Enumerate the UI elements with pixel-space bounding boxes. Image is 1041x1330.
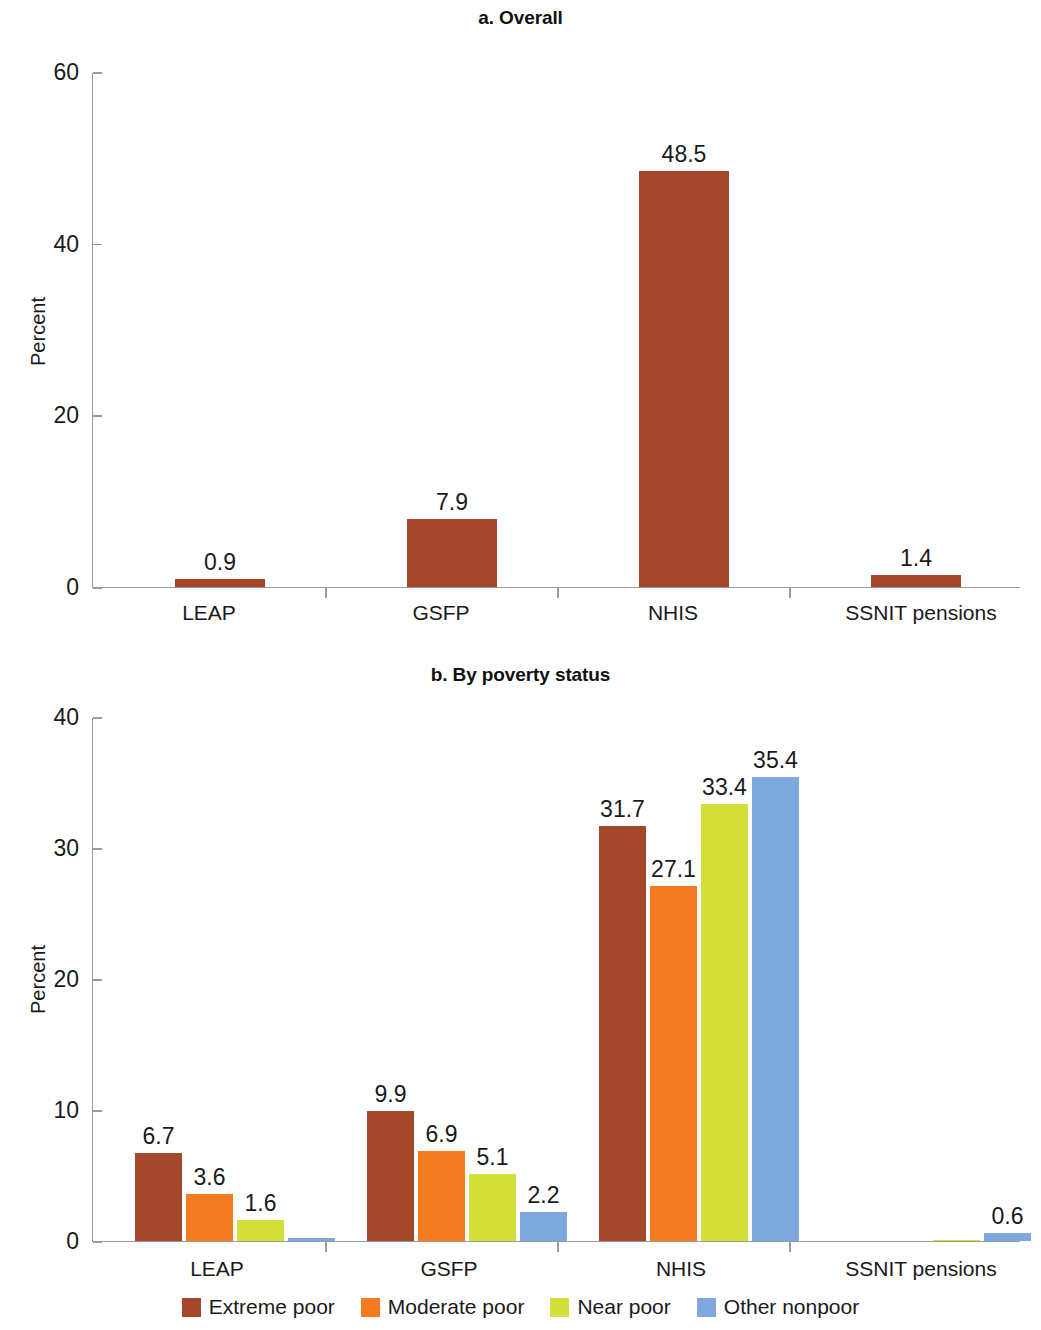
panel-a-xlabel-nhis: NHIS [648,601,698,625]
tick-mark-icon [93,1110,102,1112]
panel-a-ytick-label: 60 [53,59,79,86]
bar-nhis-moderate-poor: 27.1 [650,886,697,1241]
panel-a-xlabel-leap: LEAP [182,601,236,625]
bar-value-label: 3.6 [194,1166,226,1189]
panel-b-y-axis-title: Percent [27,920,50,1040]
bar-nhis-extreme-poor: 31.7 [599,826,646,1241]
panel-b-xlabel-leap: LEAP [190,1257,244,1281]
panel-a-xlabel-ssnit: SSNIT pensions [845,601,996,625]
legend-swatch-icon [697,1298,716,1317]
panel-b-title: b. By poverty status [0,664,1041,686]
bar-nhis: 48.5 [639,171,729,587]
legend-item-moderate-poor: Moderate poor [361,1295,525,1319]
bar-value-label: 35.4 [753,749,798,772]
bar-value-label: 0.6 [992,1205,1024,1228]
tick-mark-icon [93,244,102,246]
panel-b-legend: Extreme poor Moderate poor Near poor Oth… [0,1295,1041,1319]
panel-b-plot-area: 40 30 20 10 0 6.7 3.6 1.6 [92,718,1020,1242]
legend-label: Near poor [577,1295,670,1319]
legend-item-extreme-poor: Extreme poor [182,1295,335,1319]
bar-leap-extreme-poor: 6.7 [135,1153,182,1241]
bar-ssnit-near-poor [933,1240,980,1241]
panel-b-xlabel-ssnit: SSNIT pensions [845,1257,996,1281]
panel-a-ytick-label: 20 [53,402,79,429]
panel-b-ytick-label: 40 [53,704,79,731]
bar-nhis-other-nonpoor: 35.4 [752,777,799,1241]
panel-b-xtick-sep-3 [789,1241,791,1252]
panel-a-ytick-label: 40 [53,231,79,258]
bar-value-label: 9.9 [375,1083,407,1106]
tick-mark-icon [93,717,102,719]
bar-ssnit-pensions: 1.4 [871,575,961,587]
panel-a-xtick-sep-1 [325,587,327,598]
bar-value-label: 27.1 [651,858,696,881]
panel-b-xlabel-nhis: NHIS [656,1257,706,1281]
bar-value-label: 7.9 [436,491,468,514]
legend-swatch-icon [182,1298,201,1317]
bar-gsfp: 7.9 [407,519,497,587]
bar-value-label: 1.4 [900,547,932,570]
tick-mark-icon [93,72,102,74]
legend-item-other-nonpoor: Other nonpoor [697,1295,859,1319]
legend-label: Moderate poor [388,1295,525,1319]
tick-mark-icon [93,1241,102,1243]
tick-mark-icon [93,415,102,417]
panel-b-xtick-sep-1 [325,1241,327,1252]
bar-value-label: 6.9 [426,1123,458,1146]
bar-gsfp-near-poor: 5.1 [469,1174,516,1241]
bar-leap-moderate-poor: 3.6 [186,1194,233,1241]
legend-swatch-icon [550,1298,569,1317]
tick-mark-icon [93,587,102,589]
bar-ssnit-other-nonpoor: 0.6 [984,1233,1031,1241]
bar-value-label: 5.1 [477,1146,509,1169]
bar-leap-near-poor: 1.6 [237,1220,284,1241]
panel-overall: a. Overall Percent 60 40 20 0 0.9 7.9 [0,0,1041,650]
bar-gsfp-extreme-poor: 9.9 [367,1111,414,1241]
panel-a-xlabel-gsfp: GSFP [412,601,469,625]
bar-value-label: 1.6 [245,1192,277,1215]
bar-gsfp-moderate-poor: 6.9 [418,1151,465,1241]
bar-value-label: 31.7 [600,798,645,821]
panel-b-xtick-sep-2 [557,1241,559,1252]
panel-b-ytick-label: 10 [53,1097,79,1124]
bar-value-label: 0.9 [204,551,236,574]
panel-a-ytick-label: 0 [66,574,79,601]
tick-mark-icon [93,848,102,850]
bar-gsfp-other-nonpoor: 2.2 [520,1212,567,1241]
panel-a-xtick-sep-2 [557,587,559,598]
bar-leap-other-nonpoor [288,1238,335,1242]
panel-a-plot-area: 60 40 20 0 0.9 7.9 48.5 1.4 [92,73,1020,588]
panel-b-ytick-label: 20 [53,966,79,993]
legend-item-near-poor: Near poor [550,1295,670,1319]
bar-value-label: 6.7 [143,1125,175,1148]
panel-b-xlabel-gsfp: GSFP [420,1257,477,1281]
legend-label: Extreme poor [209,1295,335,1319]
panel-b-ytick-label: 30 [53,835,79,862]
bar-value-label: 33.4 [702,776,747,799]
panel-b-ytick-label: 0 [66,1228,79,1255]
panel-a-xtick-sep-3 [789,587,791,598]
bar-nhis-near-poor: 33.4 [701,804,748,1242]
bar-leap: 0.9 [175,579,265,587]
panel-a-y-axis-title: Percent [27,272,50,392]
tick-mark-icon [93,979,102,981]
legend-label: Other nonpoor [724,1295,859,1319]
bar-value-label: 2.2 [528,1184,560,1207]
legend-swatch-icon [361,1298,380,1317]
panel-by-poverty-status: b. By poverty status Percent 40 30 20 10… [0,650,1041,1330]
panel-a-title: a. Overall [0,7,1041,29]
bar-value-label: 48.5 [662,143,707,166]
